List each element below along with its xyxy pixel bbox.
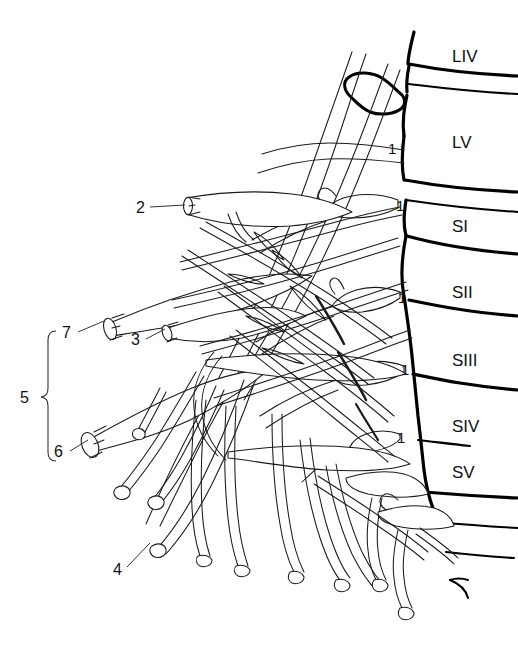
callout-leaders — [70, 205, 185, 567]
callout-label-group: 2 7 3 6 4 5 — [20, 199, 145, 578]
vertebra-label-SII: SII — [452, 283, 473, 302]
callout-label-4: 4 — [113, 561, 122, 578]
vertebra-label-SV: SV — [452, 463, 475, 482]
callout-label-7: 7 — [62, 324, 71, 341]
root-label-1-s4: 1 — [397, 429, 405, 446]
figure-canvas: LIV LV SI SII SIII SIV SV 1 1 1 1 1 2 7 … — [0, 0, 518, 657]
bracket-group-5 — [41, 331, 56, 461]
callout-label-3: 3 — [131, 331, 140, 348]
descending-branches — [114, 352, 386, 592]
vertebra-label-LIV: LIV — [452, 47, 478, 66]
leader-2 — [150, 205, 185, 207]
bracket-label-5: 5 — [20, 389, 29, 406]
leader-7 — [78, 321, 104, 332]
vertebra-label-SIV: SIV — [452, 417, 480, 436]
vertebra-label-SI: SI — [452, 217, 468, 236]
root-label-1-s2: 1 — [398, 289, 406, 306]
callout-label-2: 2 — [136, 199, 145, 216]
vertebra-label-LV: LV — [452, 133, 472, 152]
callout-label-6: 6 — [54, 443, 63, 460]
leader-4 — [127, 543, 150, 567]
root-label-1-lv: 1 — [388, 140, 396, 157]
root-label-1-s1: 1 — [396, 197, 404, 214]
vertebra-label-SIII: SIII — [452, 351, 478, 370]
root-label-1-s3: 1 — [401, 361, 409, 378]
brace-5 — [41, 331, 56, 461]
vertebra-label-group: LIV LV SI SII SIII SIV SV — [452, 47, 480, 482]
